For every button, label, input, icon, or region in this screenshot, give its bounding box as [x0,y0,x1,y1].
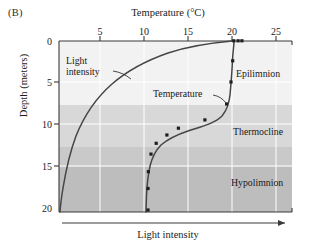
zone-label-epilimnion: Epilimnion [236,68,280,79]
data-point [232,39,235,42]
temperature-annotation: Temperature [153,89,202,100]
data-point [146,187,149,190]
light-intensity-annotation-line2: intensity [66,67,100,78]
arrow-head [278,220,285,226]
data-point [165,133,168,136]
light-intensity-annotation: Light intensity [66,56,100,77]
plot-canvas [0,0,312,244]
data-point [229,80,232,83]
data-point [155,142,158,145]
zone-label-hypolimnion: Hypolimnion [231,177,283,188]
data-point [146,208,149,211]
data-point [240,39,243,42]
band-thermocline-lower [59,147,292,167]
data-point [177,127,180,130]
data-point [147,170,150,173]
zone-label-thermocline: Thermocline [233,126,283,137]
band-hypolimnion [59,167,292,212]
data-point [203,118,206,121]
data-point [237,39,240,42]
data-point [231,59,234,62]
light-intensity-arrow-axis [62,220,285,226]
figure-panel-b: (B) Temperature (°C) Depth (meters) Ligh… [0,0,312,244]
data-point [149,153,152,156]
light-intensity-annotation-line1: Light [66,56,100,67]
